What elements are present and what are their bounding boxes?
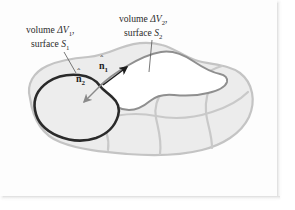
- label-region-2-surface-word: surface: [124, 27, 154, 38]
- label-region-1-line2: surface S1: [26, 38, 74, 52]
- label-region-1-volume-word: volume: [26, 24, 57, 35]
- n1-subscript: 1: [105, 66, 109, 74]
- n1-symbol-with-hat: ˆn: [99, 60, 105, 71]
- surface-subscript-1: 1: [66, 44, 69, 51]
- n2-symbol-with-hat: ˆn: [76, 73, 82, 84]
- surface-subscript-2: 2: [159, 33, 162, 40]
- label-region-2: volume ΔV2, surface S2: [119, 13, 167, 41]
- figure-page: volume ΔV1, surface S1 volume ΔV2, surfa…: [0, 0, 295, 210]
- hat-accent-icon-2: ˆ: [77, 68, 80, 77]
- label-region-1-comma: ,: [72, 24, 74, 35]
- normal-vector-n2-label: ˆn2: [76, 73, 85, 87]
- label-region-2-comma: ,: [165, 13, 167, 24]
- label-region-2-line1: volume ΔV2,: [119, 13, 167, 27]
- n2-subscript: 2: [82, 79, 86, 87]
- label-region-1-line1: volume ΔV1,: [26, 24, 74, 38]
- label-region-2-line2: surface S2: [119, 27, 167, 41]
- label-region-1: volume ΔV1, surface S1: [26, 24, 74, 52]
- hat-accent-icon-1: ˆ: [100, 55, 103, 64]
- label-region-1-surface-word: surface: [31, 38, 61, 49]
- normal-vector-n1-label: ˆn1: [99, 60, 108, 74]
- label-region-2-volume-word: volume: [119, 13, 150, 24]
